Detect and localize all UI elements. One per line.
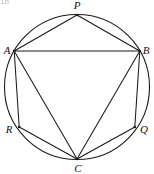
chord-Q-C — [77, 127, 135, 159]
vertex-dot-C — [76, 158, 79, 161]
geometry-figure: 1b P B Q C R A — [0, 0, 154, 174]
vertex-dot-R — [18, 126, 21, 129]
vertex-label-B: B — [143, 44, 150, 56]
vertex-dot-group — [13, 14, 141, 161]
vertex-label-Q: Q — [140, 123, 148, 135]
vertex-dot-Q — [134, 126, 137, 129]
chord-B-C — [77, 51, 140, 159]
chord-B-Q — [135, 51, 140, 127]
vertex-label-group: P B Q C R A — [3, 0, 150, 174]
chord-A-C — [14, 51, 77, 159]
chord-A-P — [14, 15, 77, 51]
chord-group — [14, 15, 140, 159]
vertex-label-R: R — [5, 123, 13, 135]
chord-C-R — [19, 127, 77, 159]
circle-diagram-svg: P B Q C R A — [0, 0, 154, 174]
chord-R-A — [14, 51, 19, 127]
vertex-dot-B — [139, 50, 142, 53]
vertex-dot-P — [76, 14, 79, 17]
chord-P-B — [77, 15, 140, 51]
circumcircle — [5, 15, 150, 160]
vertex-dot-A — [13, 50, 16, 53]
vertex-label-C: C — [74, 162, 82, 174]
vertex-label-P: P — [73, 0, 81, 11]
vertex-label-A: A — [3, 44, 11, 56]
